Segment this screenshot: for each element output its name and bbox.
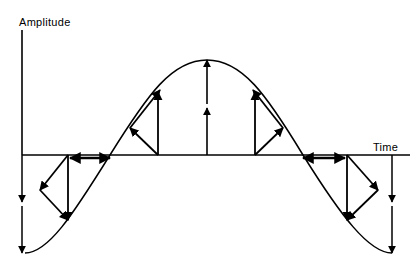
diagram-canvas [0, 0, 415, 270]
right-triangle-lower-diagonal-arrow [347, 190, 378, 220]
mid-right-triangle-upper-diagonal-arrow [253, 90, 283, 128]
mid-left-triangle-upper-diagonal-arrow [130, 90, 160, 128]
left-triangle-upper-diagonal-arrow [40, 155, 68, 190]
right-triangle-upper-diagonal-arrow [347, 155, 378, 190]
amplitude-axis-label: Amplitude [19, 16, 71, 28]
mid-right-triangle-lower-diagonal-arrow [255, 128, 283, 155]
left-triangle-group [40, 155, 68, 220]
left-triangle-lower-diagonal-arrow [40, 190, 68, 220]
sine-wave-vector-diagram: Amplitude Time [0, 0, 415, 270]
mid-right-triangle-group [253, 90, 283, 155]
sine-curve-group [25, 60, 392, 253]
sine-wave-path [25, 60, 392, 253]
mid-left-triangle-group [130, 90, 160, 155]
axes-group [22, 30, 410, 155]
right-triangle-group [347, 155, 378, 220]
mid-left-triangle-lower-diagonal-arrow [130, 128, 158, 155]
time-axis-label: Time [373, 141, 398, 153]
